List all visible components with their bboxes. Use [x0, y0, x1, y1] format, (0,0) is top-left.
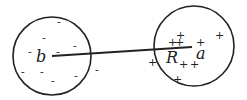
svg-text:+: +	[196, 36, 205, 49]
right-sphere	[154, 6, 234, 86]
svg-text:+: +	[173, 73, 182, 86]
svg-text:+: +	[176, 29, 185, 42]
svg-text:-: -	[42, 32, 46, 45]
svg-text:-: -	[51, 75, 55, 88]
svg-text:-: -	[73, 40, 77, 53]
svg-text:-: -	[74, 70, 78, 83]
svg-text:-: -	[40, 66, 44, 79]
positive-charges: + + + + + + + + +	[148, 29, 224, 86]
svg-text:-: -	[21, 66, 25, 79]
svg-text:-: -	[28, 46, 32, 59]
svg-text:+: +	[215, 29, 224, 42]
svg-text:-: -	[95, 64, 99, 77]
two-charged-spheres-diagram: b R a - - - - - - - - - - + + + + + + + …	[0, 0, 247, 100]
label-b: b	[36, 47, 46, 66]
svg-text:+: +	[179, 58, 188, 71]
negative-charges: - - - - - - - - - -	[21, 16, 99, 88]
label-r: R	[165, 48, 178, 67]
svg-text:-: -	[56, 46, 60, 59]
svg-text:-: -	[57, 16, 61, 29]
svg-text:+: +	[190, 58, 199, 71]
svg-text:+: +	[148, 56, 157, 69]
